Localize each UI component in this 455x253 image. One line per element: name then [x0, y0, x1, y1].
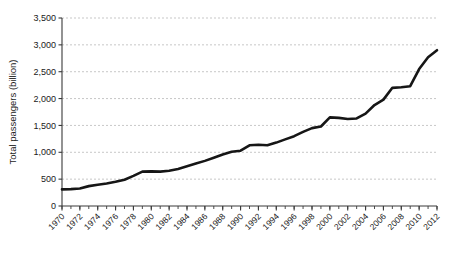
y-axis-tick-label: 500	[41, 174, 56, 184]
x-axis-tick-label: 1986	[189, 211, 210, 232]
x-axis-tick-label: 1970	[46, 211, 67, 232]
x-axis-tick-label: 2004	[350, 211, 371, 232]
gridlines	[62, 18, 437, 179]
x-axis-tick-label: 2012	[421, 211, 442, 232]
y-axis-tick-label: 1,000	[33, 147, 56, 157]
x-axis-tick-label: 2006	[368, 211, 389, 232]
y-axis-tick-label: 2,000	[33, 94, 56, 104]
x-axis-tick-label: 1982	[153, 211, 174, 232]
x-axis-tick-label: 1972	[64, 211, 85, 232]
x-axis-tick-label: 1994	[260, 211, 281, 232]
y-axis-tick-label: 3,000	[33, 40, 56, 50]
x-axis-tick-label: 1998	[296, 211, 317, 232]
passenger-trend-line-chart: 05001,0001,5002,0002,5003,0003,500 19701…	[0, 0, 455, 253]
x-axis-tick-label: 1984	[171, 211, 192, 232]
y-axis-tick-labels: 05001,0001,5002,0002,5003,0003,500	[33, 13, 56, 211]
x-axis-tick-label: 1980	[135, 211, 156, 232]
x-axis-tick-label: 2008	[385, 211, 406, 232]
chart-container: 05001,0001,5002,0002,5003,0003,500 19701…	[0, 0, 455, 253]
data-series-line	[62, 50, 437, 189]
x-axis-tick-label: 1978	[118, 211, 139, 232]
y-axis-tick-label: 3,500	[33, 13, 56, 23]
x-axis-tick-label: 2002	[332, 211, 353, 232]
x-axis-tick-label: 1974	[82, 211, 103, 232]
x-axis-tick-label: 1976	[100, 211, 121, 232]
x-axis-tick-label: 2010	[403, 211, 424, 232]
x-axis-tick-label: 1990	[225, 211, 246, 232]
y-axis-title: Total passengers (billion)	[7, 59, 18, 164]
y-axis-tick-label: 0	[51, 201, 56, 211]
x-axis-tick-label: 1988	[207, 211, 228, 232]
x-axis-tick-label: 1992	[243, 211, 264, 232]
y-axis-tick-label: 1,500	[33, 121, 56, 131]
x-axis-tick-labels: 1970197219741976197819801982198419861988…	[46, 211, 442, 232]
y-axis-tick-label: 2,500	[33, 67, 56, 77]
x-axis-tick-label: 2000	[314, 211, 335, 232]
x-axis-tick-label: 1996	[278, 211, 299, 232]
